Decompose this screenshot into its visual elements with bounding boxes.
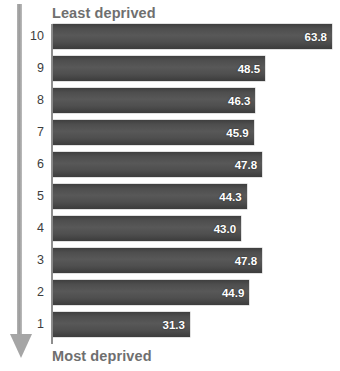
bar: 44.9 <box>53 280 249 305</box>
bar-value-label: 63.8 <box>305 31 332 43</box>
most-deprived-label: Most deprived <box>52 348 152 364</box>
bar: 43.0 <box>53 216 241 241</box>
bar-value-label: 45.9 <box>226 127 253 139</box>
y-axis-tick-label: 5 <box>0 184 44 209</box>
bar: 63.8 <box>53 24 332 49</box>
bar-value-label: 44.9 <box>222 287 249 299</box>
bar-row: 846.3 <box>0 88 340 120</box>
bar: 46.3 <box>53 88 255 113</box>
bar: 44.3 <box>53 184 247 209</box>
bar-value-label: 47.8 <box>235 159 262 171</box>
bar-row: 347.8 <box>0 248 340 280</box>
bar: 48.5 <box>53 56 265 81</box>
bar-value-label: 43.0 <box>214 223 241 235</box>
bar-value-label: 48.5 <box>238 63 265 75</box>
bar: 31.3 <box>53 312 190 337</box>
bar-row: 1063.8 <box>0 24 340 56</box>
bar-row: 131.3 <box>0 312 340 344</box>
bar-value-label: 47.8 <box>235 255 262 267</box>
y-axis-tick-label: 7 <box>0 120 44 145</box>
y-axis-tick-label: 3 <box>0 248 44 273</box>
y-axis-tick-label: 4 <box>0 216 44 241</box>
bar-row: 244.9 <box>0 280 340 312</box>
bar: 47.8 <box>53 248 262 273</box>
bar-row: 948.5 <box>0 56 340 88</box>
y-axis-tick-label: 6 <box>0 152 44 177</box>
bar-value-label: 46.3 <box>228 95 255 107</box>
bar-row: 544.3 <box>0 184 340 216</box>
y-axis-tick-label: 9 <box>0 56 44 81</box>
y-axis-tick-label: 8 <box>0 88 44 113</box>
bar-rows: 1063.8948.5846.3745.9647.8544.3443.0347.… <box>0 24 340 344</box>
bar-row: 745.9 <box>0 120 340 152</box>
bar: 45.9 <box>53 120 254 145</box>
least-deprived-label: Least deprived <box>52 5 156 21</box>
bar: 47.8 <box>53 152 262 177</box>
bar-value-label: 44.3 <box>219 191 246 203</box>
chart-plot-area: 1063.8948.5846.3745.9647.8544.3443.0347.… <box>0 24 340 344</box>
bar-row: 443.0 <box>0 216 340 248</box>
y-axis-tick-label: 2 <box>0 280 44 305</box>
bar-row: 647.8 <box>0 152 340 184</box>
cropped-title-remnant <box>60 0 300 3</box>
y-axis-tick-label: 10 <box>0 24 44 49</box>
y-axis-tick-label: 1 <box>0 312 44 337</box>
bar-value-label: 31.3 <box>162 319 189 331</box>
